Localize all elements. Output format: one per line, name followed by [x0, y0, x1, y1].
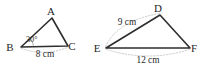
geometry-diagram: A B C 30° 8 cm D E F 9 cm 12 cm: [0, 0, 206, 67]
geometry-figure: A B C 30° 8 cm D E F 9 cm 12 cm: [0, 0, 206, 67]
triangle-abc: A B C 30° 8 cm: [6, 5, 75, 59]
dimension-label-bc: 8 cm: [36, 49, 55, 59]
vertex-label-f: F: [191, 42, 197, 54]
vertex-label-a: A: [47, 5, 55, 17]
angle-label-b: 30°: [26, 35, 37, 44]
vertex-label-e: E: [94, 42, 101, 54]
triangle-def: D E F 9 cm 12 cm: [94, 2, 197, 65]
vertex-label-c: C: [68, 40, 75, 52]
dimension-label-ed: 9 cm: [118, 17, 137, 27]
vertex-label-b: B: [6, 41, 13, 53]
vertex-label-d: D: [154, 2, 162, 14]
dimension-label-ef: 12 cm: [137, 55, 161, 65]
